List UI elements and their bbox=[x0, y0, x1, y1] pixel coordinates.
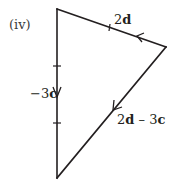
edge-top-2d bbox=[57, 9, 166, 47]
tick-mark-top bbox=[109, 24, 110, 31]
label-minus-3c-vector: c bbox=[49, 86, 57, 101]
label-hyp-coef1: 2 bbox=[117, 112, 125, 127]
label-minus-3c-coef: −3 bbox=[30, 86, 49, 101]
label-minus-3c: −3c bbox=[30, 86, 57, 101]
vector-triangle-diagram: (iv) 2d −3c 2d – 3c bbox=[0, 0, 177, 182]
label-hyp-vec2: c bbox=[157, 112, 165, 127]
label-2d-minus-3c: 2d – 3c bbox=[117, 112, 165, 127]
label-2d-coef: 2 bbox=[114, 12, 122, 27]
label-2d-vector: d bbox=[122, 12, 131, 27]
label-hyp-coef2: 3 bbox=[149, 112, 157, 127]
label-2d: 2d bbox=[114, 12, 131, 27]
part-label: (iv) bbox=[9, 17, 31, 32]
label-hyp-op: – bbox=[134, 112, 149, 127]
label-hyp-vec1: d bbox=[125, 112, 134, 127]
